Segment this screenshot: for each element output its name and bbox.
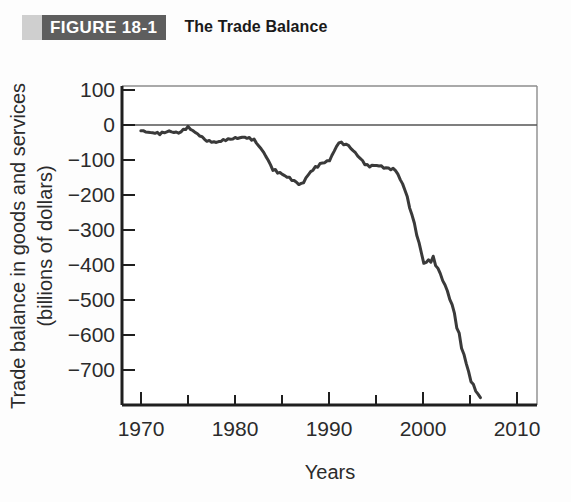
trade-balance-line-chart: 100 0 −100 −200 −300 −400 −500 −600 −700: [0, 44, 571, 502]
x-tick-label: 2010: [494, 417, 541, 440]
x-tick-label: 1980: [212, 417, 259, 440]
y-tick-label: −600: [68, 323, 115, 346]
y-axis-title-line1: Trade balance in goods and services: [7, 83, 29, 409]
x-tick-label: 2000: [400, 417, 447, 440]
y-axis-title-line2: (billions of dollars): [34, 165, 56, 326]
y-tick-label: 100: [80, 78, 115, 101]
figure-header: FIGURE 18-1 The Trade Balance: [0, 10, 571, 44]
plot-background: [122, 86, 537, 405]
y-tick-label: −400: [68, 253, 115, 276]
figure-number-badge: FIGURE 18-1: [22, 15, 166, 40]
y-tick-label: −500: [68, 288, 115, 311]
chart-area: 100 0 −100 −200 −300 −400 −500 −600 −700: [0, 44, 571, 502]
x-tick-label: 1970: [118, 417, 165, 440]
figure-root: FIGURE 18-1 The Trade Balance: [0, 0, 571, 502]
y-tick-label: −700: [68, 358, 115, 381]
y-tick-label: −100: [68, 148, 115, 171]
figure-number-label: FIGURE 18-1: [42, 15, 166, 40]
y-tick-label: 0: [103, 113, 115, 136]
badge-accent-tab: [22, 15, 42, 40]
x-axis-title: Years: [305, 461, 355, 483]
y-tick-label: −300: [68, 218, 115, 241]
x-tick-label: 1990: [306, 417, 353, 440]
y-tick-label: −200: [68, 183, 115, 206]
figure-title: The Trade Balance: [184, 18, 327, 36]
